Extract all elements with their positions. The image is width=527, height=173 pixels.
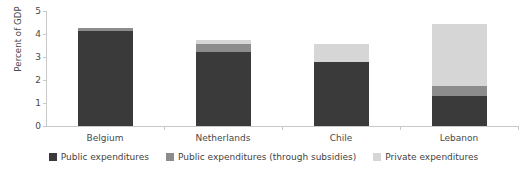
bar-segment[interactable] [432,96,487,126]
legend-label: Public expenditures [61,152,149,162]
stacked-bar[interactable] [196,40,251,126]
y-tick-label: 2 [35,76,41,85]
y-tick-label: 3 [35,53,41,62]
bar-group[interactable] [78,11,133,126]
x-tick-mark [400,126,401,130]
bar-segment[interactable] [196,44,251,52]
x-tick-mark [282,126,283,130]
bar-group[interactable] [432,11,487,126]
x-tick-mark [518,126,519,130]
x-tick-mark [164,126,165,130]
legend-swatch-icon [373,153,381,161]
y-tick-label: 5 [35,7,41,16]
y-axis-line [46,11,47,126]
legend-swatch-icon [49,153,57,161]
bar-segment[interactable] [432,86,487,96]
legend-item[interactable]: Private expenditures [373,152,478,162]
plot-area: 012345 BelgiumNetherlandsChileLebanon [46,11,518,126]
stacked-bar[interactable] [314,44,369,126]
legend-item[interactable]: Public expenditures (through subsidies) [166,152,356,162]
bar-segment[interactable] [196,52,251,126]
y-tick-mark [43,126,46,127]
bar-segment[interactable] [78,31,133,126]
x-tick-label: Belgium [87,133,124,143]
y-tick-mark [43,80,46,81]
y-axis-title: Percent of GDP [13,0,23,89]
y-tick-label: 1 [35,99,41,108]
stacked-bar-chart: Percent of GDP 012345 BelgiumNetherlands… [0,0,527,173]
legend-label: Public expenditures (through subsidies) [178,152,356,162]
y-tick-mark [43,34,46,35]
bar-group[interactable] [314,11,369,126]
y-tick-mark [43,11,46,12]
y-tick-label: 4 [35,30,41,39]
legend-item[interactable]: Public expenditures [49,152,149,162]
x-tick-label: Chile [330,133,353,143]
legend-label: Private expenditures [385,152,478,162]
legend-swatch-icon [166,153,174,161]
stacked-bar[interactable] [432,24,487,126]
x-tick-label: Netherlands [196,133,251,143]
chart-legend: Public expendituresPublic expenditures (… [0,152,527,162]
bar-segment[interactable] [432,24,487,86]
stacked-bar[interactable] [78,28,133,126]
y-tick-label: 0 [35,122,41,131]
bar-segment[interactable] [314,44,369,61]
bar-group[interactable] [196,11,251,126]
y-tick-mark [43,103,46,104]
y-tick-mark [43,57,46,58]
x-tick-label: Lebanon [440,133,479,143]
bar-segment[interactable] [314,62,369,126]
